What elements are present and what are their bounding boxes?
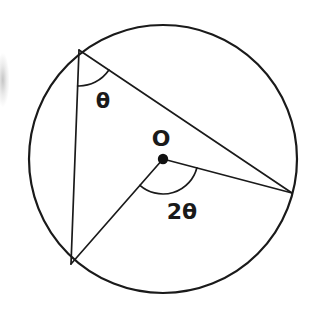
inscribed-angle-arc: [78, 70, 109, 86]
figure-canvas: O θ 2θ: [0, 0, 315, 315]
chord-a-b: [71, 50, 79, 264]
geometry-figure: O θ 2θ: [0, 0, 315, 315]
central-angle-label: 2θ: [167, 199, 197, 224]
inscribed-angle-label: θ: [96, 89, 110, 113]
central-angle-arc: [140, 168, 197, 194]
center-point-dot: [158, 154, 168, 164]
radius-o-b: [71, 159, 163, 264]
chord-a-c: [79, 50, 292, 193]
center-point-label: O: [152, 126, 171, 151]
